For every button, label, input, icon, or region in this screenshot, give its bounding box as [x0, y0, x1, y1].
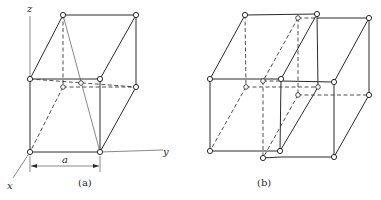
atom — [97, 149, 102, 154]
atom — [207, 76, 212, 81]
diagram-canvas: z y x a (a) — [0, 0, 381, 200]
atom — [278, 76, 283, 81]
y-axis-label: y — [162, 146, 169, 157]
atom — [261, 79, 266, 84]
x-axis — [13, 152, 30, 178]
panel-b-caption: (b) — [257, 177, 271, 188]
atom — [97, 76, 102, 81]
atom — [366, 15, 371, 20]
atom — [61, 85, 66, 90]
y-axis — [100, 150, 163, 152]
panel-b: (b) — [207, 11, 371, 188]
crystal-lattice-diagram: z y x a (a) — [0, 0, 381, 200]
atom — [244, 85, 249, 90]
atom — [260, 155, 265, 160]
atom — [314, 11, 319, 16]
lattice-constant-label: a — [62, 154, 68, 165]
atom — [79, 81, 84, 86]
x-axis-label: x — [7, 180, 13, 191]
atom — [60, 12, 65, 17]
atom — [133, 84, 138, 89]
atom — [296, 93, 301, 98]
atom — [331, 154, 336, 159]
atom — [207, 148, 212, 153]
panel-a-caption: (a) — [78, 177, 92, 188]
atom — [296, 16, 301, 21]
atom — [366, 92, 371, 97]
atom — [277, 148, 282, 153]
z-axis-label: z — [26, 3, 33, 14]
atom — [27, 149, 32, 154]
atom — [27, 76, 32, 81]
atom — [133, 12, 138, 17]
atom — [316, 85, 321, 90]
atom — [242, 12, 247, 17]
panel-a: z y x a (a) — [7, 3, 169, 191]
atom — [331, 79, 336, 84]
